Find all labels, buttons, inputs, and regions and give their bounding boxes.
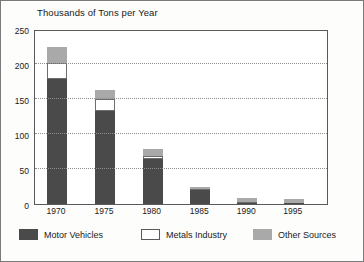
bar-segment-other-sources (284, 199, 304, 203)
white-swatch-icon (141, 229, 160, 240)
bar-group (95, 29, 115, 204)
gridline-50 (35, 168, 327, 169)
gridline-200 (35, 63, 327, 64)
x-axis-tick-label: 1970 (47, 206, 66, 216)
bar-segment-metals-industry (47, 63, 67, 79)
bar-group (143, 29, 163, 204)
y-axis-tick-label: 150 (15, 96, 29, 106)
y-axis-tick-label: 50 (20, 166, 29, 176)
bar-segment-motor-vehicles (95, 111, 115, 204)
y-axis-tick-label: 0 (24, 201, 29, 211)
bar-segment-other-sources (237, 198, 257, 202)
x-axis-tick-label: 1995 (283, 206, 302, 216)
gridline-100 (35, 133, 327, 134)
bar-segment-other-sources (143, 149, 163, 156)
bar-group (237, 29, 257, 204)
x-axis-tick-label: 1990 (237, 206, 256, 216)
legend-item-other-sources[interactable]: Other Sources (253, 229, 336, 240)
dark-gray-swatch-icon (19, 229, 38, 240)
x-axis: 197019751980198519901995 (34, 206, 328, 222)
bar-segment-metals-industry (95, 99, 115, 111)
bar-segment-motor-vehicles (237, 203, 257, 205)
legend-item-metals-industry[interactable]: Metals Industry (141, 229, 227, 240)
bar-segment-other-sources (47, 47, 67, 64)
bar-segment-other-sources (190, 187, 210, 190)
y-axis-tick-label: 250 (15, 26, 29, 36)
bar-group (47, 29, 67, 204)
chart-page: Thousands of Tons per Year 0501001502002… (0, 0, 364, 262)
gridline-150 (35, 98, 327, 99)
y-axis-tick-label: 200 (15, 61, 29, 71)
x-axis-tick-label: 1985 (190, 206, 209, 216)
legend-label: Motor Vehicles (44, 230, 103, 240)
legend-label: Metals Industry (166, 230, 227, 240)
y-axis-tick-label: 100 (15, 131, 29, 141)
chart-legend: Motor VehiclesMetals IndustryOther Sourc… (1, 229, 364, 251)
bar-segment-metals-industry (143, 156, 163, 159)
legend-item-motor-vehicles[interactable]: Motor Vehicles (19, 229, 103, 240)
x-axis-tick-label: 1980 (142, 206, 161, 216)
bar-segment-motor-vehicles (143, 159, 163, 205)
light-gray-swatch-icon (253, 229, 272, 240)
bar-segment-motor-vehicles (190, 190, 210, 204)
legend-label: Other Sources (278, 230, 336, 240)
bars-layer (35, 31, 327, 204)
x-axis-tick-label: 1975 (95, 206, 114, 216)
chart-title: Thousands of Tons per Year (37, 7, 158, 18)
bar-group (190, 29, 210, 204)
y-axis: 050100150200250 (1, 30, 32, 206)
plot-area (34, 30, 328, 205)
bar-group (284, 29, 304, 204)
